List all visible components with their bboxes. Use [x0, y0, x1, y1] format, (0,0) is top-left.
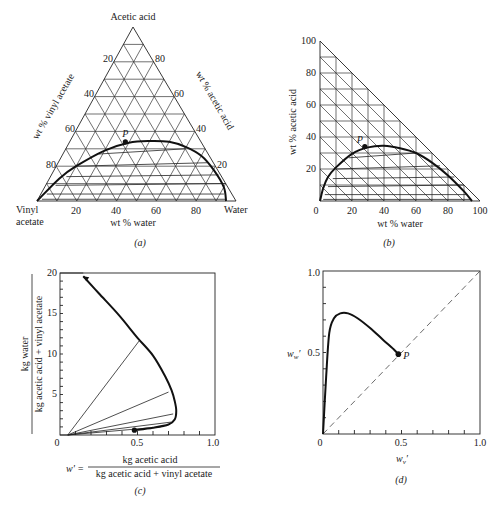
- panel-b-right-triangle: P 20 40 60 80 100 0 20 40 60 80 100 wt %…: [287, 35, 488, 249]
- left-tick-20: 20: [103, 53, 113, 64]
- figure-canvas: P Acetic acid Vinyl acetate Water wt % w…: [0, 0, 498, 506]
- point-p-marker: [396, 351, 402, 357]
- diagonal-line: [323, 271, 480, 434]
- caption-d: (d): [395, 474, 407, 486]
- x-label-denominator: kg acetic acid + vinyl acetate: [96, 468, 213, 479]
- plot-c-point: [132, 428, 137, 433]
- x-tick-0-5: 0.5: [131, 437, 144, 448]
- y-tick-0-5: 0.5: [308, 347, 321, 358]
- x-label-numerator: kg acetic acid: [123, 454, 178, 465]
- plot-c-ticks: [60, 281, 200, 435]
- apex-label-vinyl: Vinyl: [16, 204, 38, 215]
- y-tick-labels: 20 40 60 80 100: [301, 35, 316, 174]
- x-tick-0-5: 0.5: [395, 437, 408, 448]
- right-tick-20: 20: [217, 159, 227, 170]
- y-tick-5: 5: [52, 388, 57, 399]
- y-tick-20: 20: [47, 267, 57, 278]
- x-tick-1-0: 1.0: [207, 437, 220, 448]
- caption-a: (a): [134, 237, 146, 249]
- y-axis-fraction-label: kg water kg acetic acid + vinyl acetate: [19, 274, 44, 434]
- x-tick-1-0: 1.0: [474, 437, 487, 448]
- bottom-axis-label: wt % water: [110, 217, 156, 228]
- plot-c-tie-lines: [60, 273, 173, 435]
- x-axis-label: wt % water: [377, 218, 423, 229]
- right-tick-40: 40: [196, 123, 206, 134]
- plot-c-frame: [60, 273, 215, 435]
- y-tick-15: 15: [47, 307, 57, 318]
- panel-d-plot: P 1.0 0.5 0 0.5 1.0 ww′ wv′ (d): [287, 267, 486, 486]
- plot-d-curve: [323, 313, 398, 434]
- y-tick-20: 20: [306, 163, 316, 174]
- caption-b: (b): [383, 237, 395, 249]
- x-tick-0: 0: [314, 205, 319, 216]
- apex-label-acetate: acetate: [16, 216, 44, 227]
- panel-a-ternary: P Acetic acid Vinyl acetate Water wt % w…: [16, 11, 248, 249]
- apex-label-acetic-acid: Acetic acid: [110, 11, 155, 22]
- caption-c: (c): [134, 485, 146, 497]
- x-axis-label: wv′: [396, 453, 409, 466]
- y-tick-60: 60: [306, 99, 316, 110]
- y-tick-100: 100: [301, 35, 316, 46]
- y-label-numerator: kg water: [19, 336, 30, 371]
- y-axis-label: wt % acetic acid: [287, 89, 298, 155]
- y-tick-40: 40: [306, 131, 316, 142]
- y-axis-label: ww′: [287, 348, 301, 361]
- right-tick-60: 60: [174, 88, 184, 99]
- point-p-label: P: [121, 128, 128, 139]
- bottom-tick-40: 40: [111, 205, 121, 216]
- y-tick-80: 80: [306, 67, 316, 78]
- ternary-tie-lines: [42, 149, 226, 199]
- x-tick-0: 0: [318, 437, 323, 448]
- point-p-marker: [123, 139, 128, 144]
- y-tick-10: 10: [47, 348, 57, 359]
- left-tick-40: 40: [84, 88, 94, 99]
- x-tick-0: 0: [55, 437, 60, 448]
- left-tick-80: 80: [46, 159, 56, 170]
- left-tick-60: 60: [65, 123, 75, 134]
- x-label-prefix: w' =: [66, 463, 84, 474]
- right-tick-80: 80: [155, 53, 165, 64]
- bottom-tick-20: 20: [71, 205, 81, 216]
- bottom-tick-60: 60: [151, 205, 161, 216]
- x-tick-100: 100: [473, 205, 488, 216]
- apex-label-water: Water: [224, 204, 248, 215]
- right-triangle-grid: [320, 57, 464, 201]
- x-tick-40: 40: [379, 205, 389, 216]
- point-p-label: P: [402, 350, 409, 361]
- x-tick-20: 20: [347, 205, 357, 216]
- y-label-denominator: kg acetic acid + vinyl acetate: [33, 295, 44, 412]
- panel-c-ratio-plot: 20 15 10 5 0 0.5 1.0 kg water kg acetic …: [19, 267, 220, 497]
- bottom-tick-80: 80: [191, 205, 201, 216]
- point-p-label: P: [356, 134, 363, 145]
- x-tick-labels: 0 20 40 60 80 100: [314, 205, 488, 216]
- x-tick-80: 80: [443, 205, 453, 216]
- point-p-marker: [362, 144, 367, 149]
- y-tick-1-0: 1.0: [308, 267, 321, 278]
- x-tick-60: 60: [411, 205, 421, 216]
